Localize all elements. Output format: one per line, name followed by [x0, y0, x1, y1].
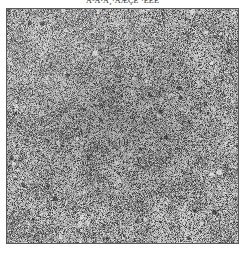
grayscale-noise-texture [6, 8, 239, 244]
figure-caption-clip: Å³Ä¹Ã¸·ÅÆÇÈ ·ÉÊË [0, 0, 245, 7]
figure-panel-root: Å³Ä¹Ã¸·ÅÆÇÈ ·ÉÊË [0, 0, 245, 255]
figure-image-panel [6, 8, 239, 244]
figure-caption: Å³Ä¹Ã¸·ÅÆÇÈ ·ÉÊË [0, 0, 245, 6]
